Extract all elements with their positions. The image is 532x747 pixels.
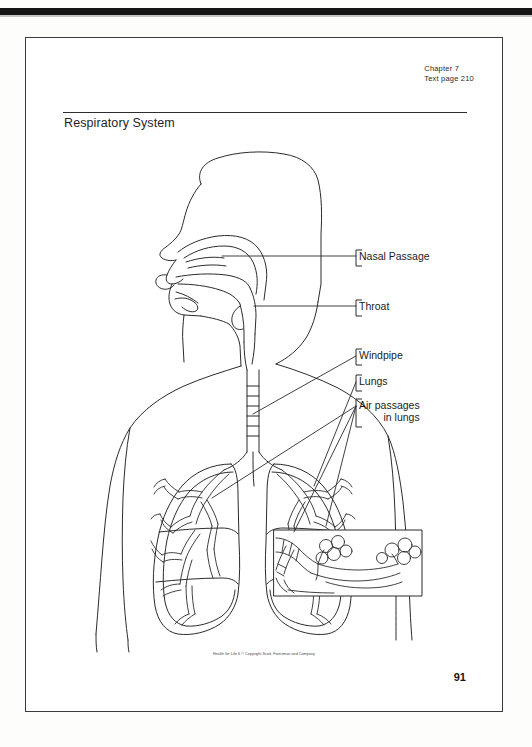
page-number: 91 bbox=[454, 671, 466, 683]
page-frame: Chapter 7 Text page 210 Respiratory Syst… bbox=[25, 37, 503, 712]
footer-credit: Health for Life 6 © Copyright Scott, For… bbox=[213, 652, 315, 656]
scan-edge-shadow bbox=[0, 15, 532, 17]
label-brackets bbox=[26, 38, 504, 713]
scanned-page: Chapter 7 Text page 210 Respiratory Syst… bbox=[0, 0, 532, 747]
scan-edge-bar bbox=[0, 8, 532, 15]
